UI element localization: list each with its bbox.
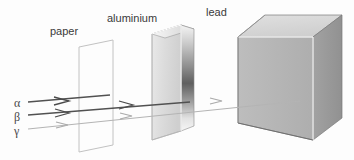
ray-alpha bbox=[28, 95, 110, 105]
ray-gamma-arrowhead-3 bbox=[210, 98, 222, 104]
ray-label-alpha: α bbox=[14, 96, 21, 110]
ray-label-beta: β bbox=[14, 110, 20, 124]
barrier-aluminium bbox=[152, 25, 194, 140]
diagram-canvas: lead aluminium paper α β γ bbox=[0, 0, 354, 160]
radiation-penetration-diagram: lead aluminium paper α β γ bbox=[0, 0, 354, 160]
lead-label: lead bbox=[206, 6, 227, 18]
paper-label: paper bbox=[50, 25, 78, 37]
lead-front-face bbox=[238, 37, 313, 140]
ray-label-gamma: γ bbox=[13, 124, 20, 138]
aluminium-side-face bbox=[181, 25, 194, 131]
aluminium-front-face bbox=[152, 25, 181, 140]
aluminium-label: aluminium bbox=[107, 12, 157, 24]
lead-side-face bbox=[313, 15, 342, 140]
barrier-lead bbox=[238, 15, 342, 140]
